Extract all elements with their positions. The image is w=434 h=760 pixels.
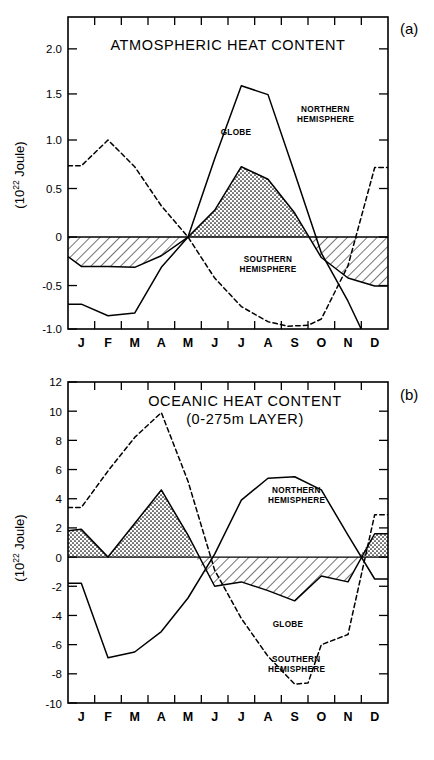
- panel-a-xtick-5: J: [211, 336, 218, 350]
- panel-b-xtick-7: A: [263, 710, 272, 724]
- panel-a-label-northern-line-1: HEMISPHERE: [297, 115, 354, 124]
- panel-a-plot-area: [68, 17, 388, 329]
- panel-a-xtick-10: N: [343, 336, 352, 350]
- panel-b-ytick-4: 4: [56, 493, 63, 505]
- panel-b-ytick-3: 6: [56, 464, 62, 476]
- panel-b-label-globe: GLOBE: [273, 620, 304, 629]
- panel-b-xtick-2: M: [129, 710, 139, 724]
- panel-b-label-southern-line-0: SOUTHERN: [272, 655, 320, 664]
- panel-b-y-axis-title: (1022 Joule): [11, 514, 27, 581]
- panel-a-ytick-0: 2.0: [46, 43, 62, 55]
- panel-b-xtick-8: S: [290, 710, 298, 724]
- panel-a-month-labels: J F M A M J J A S O N D: [78, 336, 379, 350]
- panel-a-xtick-8: S: [290, 336, 298, 350]
- panel-a-atmospheric-heat-content: 2.0 1.5 1.0 0.5 0 -0.5 -1.0 -1.5 J F M A…: [0, 0, 434, 370]
- panel-a-xtick-9: O: [316, 336, 326, 350]
- panel-b-oceanic-heat-content: 12 10 8 6 4 2 0 -2 -4 -6 -8 -10 J F M A …: [0, 370, 434, 760]
- panel-b-ytick-9: -6: [52, 639, 62, 651]
- panel-b-xtick-5: J: [211, 710, 218, 724]
- panel-b-title-line-0: OCEANIC HEAT CONTENT: [148, 393, 342, 409]
- figure-root: 2.0 1.5 1.0 0.5 0 -0.5 -1.0 -1.5 J F M A…: [0, 0, 434, 760]
- panel-b-xtick-11: D: [370, 710, 379, 724]
- panel-a-title-line-0: ATMOSPHERIC HEAT CONTENT: [110, 37, 345, 53]
- panel-b-ytick-1: 10: [49, 406, 62, 418]
- panel-b-letter: (b): [400, 386, 418, 403]
- panel-a-xtick-6: J: [238, 336, 245, 350]
- panel-a-svg: 2.0 1.5 1.0 0.5 0 -0.5 -1.0 -1.5 J F M A…: [0, 0, 434, 370]
- panel-b-xtick-1: F: [104, 710, 112, 724]
- panel-a-y-axis-title: (1022 Joule): [11, 141, 27, 208]
- panel-a-xtick-11: D: [370, 336, 379, 350]
- panel-a-xtick-4: M: [183, 336, 193, 350]
- panel-b-xtick-3: A: [157, 710, 166, 724]
- panel-a-label-southern-line-0: SOUTHERN: [244, 255, 292, 264]
- panel-b-ytick-10: -8: [52, 668, 62, 680]
- panel-a-label-northern-line-0: NORTHERN: [301, 105, 350, 114]
- panel-a-ytick-1: 1.5: [46, 88, 62, 100]
- panel-b-month-labels: J F M A M J J A S O N D: [78, 710, 379, 724]
- panel-a-xtick-1: F: [104, 336, 112, 350]
- panel-b-label-southern-line-1: HEMISPHERE: [268, 665, 325, 674]
- panel-b-xtick-9: O: [316, 710, 326, 724]
- panel-b-ytick-6: 0: [56, 552, 62, 564]
- panel-a-ytick-4: 0: [56, 231, 62, 243]
- panel-b-plot-area: [68, 382, 388, 703]
- panel-b-ytick-11: -10: [45, 698, 62, 710]
- panel-b-label-northern-line-1: HEMISPHERE: [268, 496, 325, 505]
- panel-b-xtick-0: J: [78, 710, 85, 724]
- panel-a-label-globe: GLOBE: [221, 128, 252, 137]
- panel-b-xtick-4: M: [183, 710, 193, 724]
- panel-b-ytick-8: -4: [52, 610, 63, 622]
- panel-b-svg: 12 10 8 6 4 2 0 -2 -4 -6 -8 -10 J F M A …: [0, 370, 434, 760]
- panel-a-letter: (a): [400, 20, 418, 37]
- panel-a-ytick-5: -0.5: [42, 280, 62, 292]
- panel-a-ytick-2: 1.0: [46, 134, 62, 146]
- panel-b-ytick-2: 8: [56, 435, 62, 447]
- panel-b-ytick-7: -2: [52, 581, 62, 593]
- panel-b-ytick-5: 2: [56, 522, 62, 534]
- panel-b-label-northern-line-0: NORTHERN: [272, 486, 321, 495]
- panel-a-xtick-0: J: [78, 336, 85, 350]
- panel-b-xtick-10: N: [343, 710, 352, 724]
- panel-a-xtick-7: A: [263, 336, 272, 350]
- panel-a-label-southern-line-1: HEMISPHERE: [239, 265, 296, 274]
- panel-a-ytick-3: 0.5: [46, 183, 62, 195]
- panel-a-xtick-2: M: [129, 336, 139, 350]
- panel-a-xtick-3: A: [157, 336, 166, 350]
- panel-b-ytick-0: 12: [49, 376, 62, 388]
- panel-b-xtick-6: J: [238, 710, 245, 724]
- panel-b-title-line-1: (0-275m LAYER): [186, 411, 304, 427]
